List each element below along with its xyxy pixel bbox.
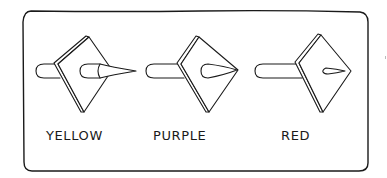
label-purple: PURPLE (153, 128, 206, 143)
red-shaft-icon (255, 64, 302, 78)
diagram-canvas (0, 0, 387, 178)
label-yellow: YELLOW (46, 128, 103, 143)
red-figure (255, 34, 351, 112)
yellow-figure (36, 36, 136, 112)
yellow-cone-icon (80, 64, 136, 78)
purple-figure (146, 36, 238, 112)
scan-speck (385, 56, 386, 59)
label-red: RED (281, 128, 310, 143)
